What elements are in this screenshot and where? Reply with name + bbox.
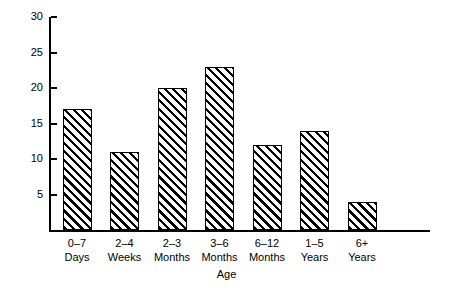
bar-chart-figure: Number of Patients 51015202530 0–7Days2–… — [0, 0, 453, 295]
y-tick-label-10: 10 — [17, 153, 43, 164]
y-tick-25 — [51, 52, 57, 54]
y-tick-15 — [51, 123, 57, 125]
y-axis-line — [49, 17, 51, 232]
y-tick-30 — [51, 16, 57, 18]
x-axis-tick-labels: 0–7Days2–4Weeks2–3Months3–6Months6–12Mon… — [49, 236, 430, 270]
plot-area — [49, 17, 430, 232]
y-axis-tick-labels: 51015202530 — [17, 17, 43, 232]
bar — [110, 152, 139, 230]
y-tick-label-5: 5 — [17, 189, 43, 200]
bar — [253, 145, 282, 230]
y-tick-10 — [51, 158, 57, 160]
y-tick-label-25: 25 — [17, 47, 43, 58]
x-tick-label-line1: 6+ — [332, 236, 392, 250]
bar — [158, 88, 187, 230]
x-axis-line — [49, 230, 430, 232]
bar — [205, 67, 234, 230]
y-tick-label-15: 15 — [17, 118, 43, 129]
bar — [63, 109, 92, 230]
y-tick-label-20: 20 — [17, 82, 43, 93]
bar — [348, 202, 377, 230]
x-tick-label-line2: Years — [332, 250, 392, 264]
x-axis-title: Age — [0, 268, 453, 280]
x-tick-label: 6+Years — [332, 236, 392, 264]
bar — [300, 131, 329, 230]
y-tick-label-30: 30 — [17, 11, 43, 22]
y-tick-20 — [51, 87, 57, 89]
y-tick-5 — [51, 194, 57, 196]
